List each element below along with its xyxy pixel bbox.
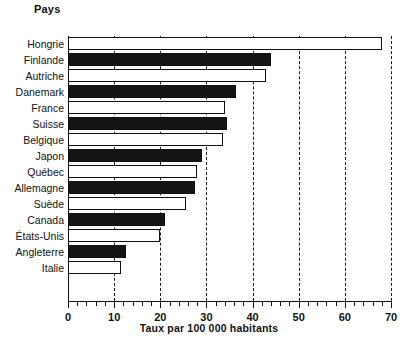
bar-danemark xyxy=(68,85,236,98)
x-axis-minor-tick xyxy=(326,301,327,306)
category-label: Autriche xyxy=(0,70,64,82)
x-axis-minor-tick xyxy=(354,301,355,306)
x-axis-minor-tick xyxy=(317,301,318,306)
bar-autriche xyxy=(68,69,266,82)
category-label: États-Unis xyxy=(0,230,64,242)
bar-tats-unis xyxy=(68,229,160,242)
category-label: Suisse xyxy=(0,118,64,130)
x-axis-minor-tick xyxy=(308,301,309,306)
bar-france xyxy=(68,101,225,114)
x-axis-major-tick xyxy=(299,301,300,308)
category-label: Angleterre xyxy=(0,246,64,258)
x-axis-minor-tick xyxy=(179,301,180,306)
category-label: Allemagne xyxy=(0,182,64,194)
x-axis-minor-tick xyxy=(77,301,78,306)
x-axis-major-tick xyxy=(206,301,207,308)
bar-allemagne xyxy=(68,181,195,194)
bar-italie xyxy=(68,261,121,274)
x-axis-minor-tick xyxy=(289,301,290,306)
x-axis-major-tick xyxy=(253,301,254,308)
x-axis-minor-tick xyxy=(188,301,189,306)
x-axis-minor-tick xyxy=(170,301,171,306)
x-axis-minor-tick xyxy=(96,301,97,306)
x-axis-minor-tick xyxy=(123,301,124,306)
bar-belgique xyxy=(68,133,223,146)
x-axis-minor-tick xyxy=(216,301,217,306)
bar-angleterre xyxy=(68,245,126,258)
category-label: Suède xyxy=(0,198,64,210)
category-label: Québec xyxy=(0,166,64,178)
x-axis-line xyxy=(68,301,391,302)
value-axis-caption: Taux par 100 000 habitants xyxy=(0,322,418,334)
x-axis-minor-tick xyxy=(363,301,364,306)
category-label: Finlande xyxy=(0,54,64,66)
bar-hongrie xyxy=(68,37,382,50)
x-axis-minor-tick xyxy=(133,301,134,306)
gridline xyxy=(299,36,300,301)
x-axis-minor-tick xyxy=(225,301,226,306)
category-label: Italie xyxy=(0,262,64,274)
x-axis-minor-tick xyxy=(151,301,152,306)
x-axis-major-tick xyxy=(345,301,346,308)
bar-canada xyxy=(68,213,165,226)
x-axis-minor-tick xyxy=(243,301,244,306)
category-label: Canada xyxy=(0,214,64,226)
gridline xyxy=(345,36,346,301)
x-axis-minor-tick xyxy=(142,301,143,306)
x-axis-minor-tick xyxy=(234,301,235,306)
x-axis-minor-tick xyxy=(382,301,383,306)
plot-area: 010203040506070 xyxy=(68,36,391,301)
x-axis-major-tick xyxy=(114,301,115,308)
x-axis-major-tick xyxy=(391,301,392,308)
x-axis-minor-tick xyxy=(336,301,337,306)
category-label: Belgique xyxy=(0,134,64,146)
x-axis-major-tick xyxy=(160,301,161,308)
x-axis-minor-tick xyxy=(86,301,87,306)
x-axis-minor-tick xyxy=(280,301,281,306)
x-axis-minor-tick xyxy=(105,301,106,306)
x-axis-minor-tick xyxy=(271,301,272,306)
x-axis-minor-tick xyxy=(373,301,374,306)
bar-suisse xyxy=(68,117,227,130)
x-axis-minor-tick xyxy=(262,301,263,306)
category-label: Japon xyxy=(0,150,64,162)
bar-finlande xyxy=(68,53,271,66)
bar-su-de xyxy=(68,197,186,210)
bar-qu-bec xyxy=(68,165,197,178)
x-axis-major-tick xyxy=(68,301,69,308)
chart-figure: Pays HongrieFinlandeAutricheDanemarkFran… xyxy=(0,0,418,347)
category-label: France xyxy=(0,102,64,114)
category-label: Danemark xyxy=(0,86,64,98)
gridline xyxy=(391,36,392,301)
category-axis-title: Pays xyxy=(34,3,61,15)
category-label: Hongrie xyxy=(0,38,64,50)
x-axis-minor-tick xyxy=(197,301,198,306)
bar-japon xyxy=(68,149,202,162)
